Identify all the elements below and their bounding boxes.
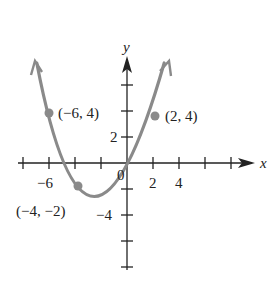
origin-label: 0 — [117, 167, 125, 183]
point-2-4 — [151, 112, 160, 121]
x-tick-label-4: 4 — [175, 175, 183, 191]
point-label-2-4: (2, 4) — [165, 108, 198, 125]
y-tick-label-2: 2 — [110, 129, 118, 145]
x-axis-label: x — [259, 155, 267, 171]
x-axis — [18, 157, 252, 169]
x-tick-label-neg6: −6 — [37, 175, 53, 191]
point-label-neg6-4: (−6, 4) — [58, 105, 99, 122]
y-axis-label: y — [121, 39, 130, 55]
x-tick-label-2: 2 — [149, 175, 157, 191]
parabola-curve — [37, 63, 164, 197]
parabola-chart: y x (−6, 4) (2, 4) (−4, −2) −6 2 4 2 −4 … — [0, 0, 280, 283]
y-tick-label-neg4: −4 — [96, 207, 112, 223]
point-neg4-neg2 — [74, 182, 83, 191]
point-label-neg4-neg2: (−4, −2) — [16, 203, 65, 220]
point-neg6-4 — [45, 109, 54, 118]
